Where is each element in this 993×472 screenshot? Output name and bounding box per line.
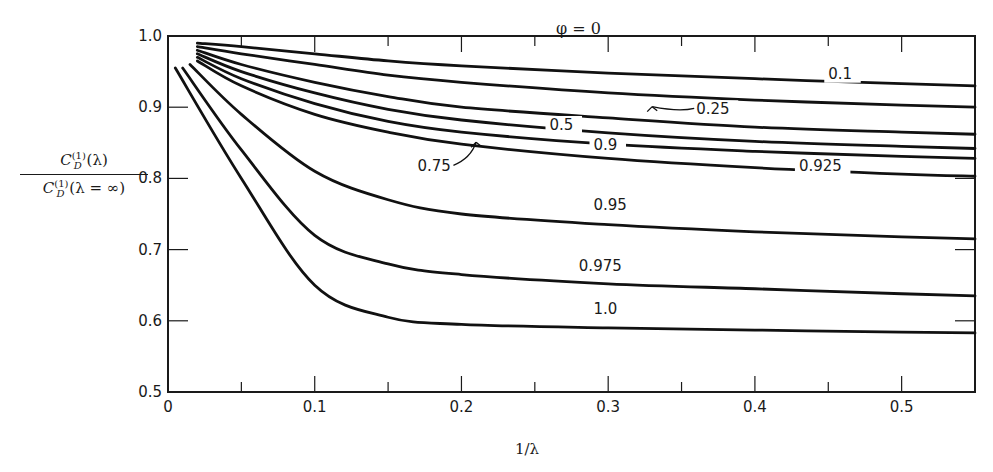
label-arrow: [652, 107, 694, 110]
y-tick-label: 0.5: [138, 383, 162, 401]
curves: [175, 43, 975, 333]
y-tick-label: 1.0: [138, 27, 162, 45]
y-axis-label-numerator: C(1)D (λ): [20, 150, 148, 175]
x-tick-label: 0.5: [890, 398, 914, 416]
y-tick-label: 0.6: [138, 312, 162, 330]
chart-plot: 00.10.20.30.40.50.50.60.70.80.91.0 0.10.…: [0, 0, 993, 472]
curve-label-1.0: 1.0: [594, 300, 618, 318]
curve-label-0.9: 0.9: [594, 136, 618, 154]
x-tick-label: 0.2: [450, 398, 474, 416]
curve-label-0.25: 0.25: [696, 100, 729, 118]
curve-label-0.75: 0.75: [417, 157, 450, 175]
x-tick-label: 0: [163, 398, 173, 416]
x-tick-label: 0.4: [743, 398, 767, 416]
y-tick-label: 0.7: [138, 241, 162, 259]
chart-title: φ = 0: [556, 19, 601, 38]
curve-label-0.1: 0.1: [828, 65, 852, 83]
x-axis-label: 1/λ: [515, 440, 539, 458]
y-axis-label: C(1)D (λ) C(1)D (λ = ∞): [20, 150, 148, 199]
curve-label-0.95: 0.95: [594, 196, 627, 214]
curve-label-0.5: 0.5: [549, 116, 573, 134]
x-tick-label: 0.3: [596, 398, 620, 416]
y-axis-label-denominator: C(1)D (λ = ∞): [20, 175, 148, 199]
curve-label-0.975: 0.975: [579, 257, 622, 275]
curve-label-0.925: 0.925: [799, 157, 842, 175]
x-tick-label: 0.1: [303, 398, 327, 416]
y-tick-label: 0.9: [138, 98, 162, 116]
